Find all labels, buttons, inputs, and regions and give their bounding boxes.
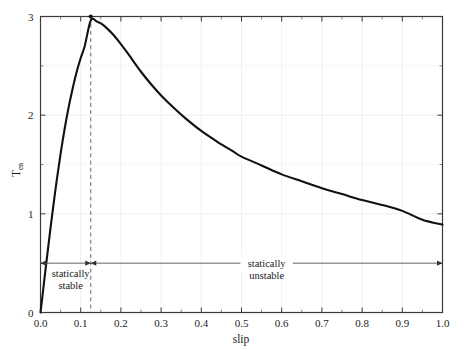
y-tick-label: 2 [28, 109, 34, 121]
svg-text:statically: statically [52, 268, 91, 279]
svg-text:statically: statically [248, 258, 287, 269]
chart-background [0, 0, 464, 350]
x-tick-label: 0.6 [275, 317, 289, 329]
x-tick-label: 0.8 [355, 317, 369, 329]
svg-text:unstable: unstable [249, 270, 284, 281]
peak-marker-dot [89, 14, 93, 18]
x-tick-label: 0.3 [154, 317, 168, 329]
x-tick-label: 0.9 [395, 317, 409, 329]
torque-slip-chart: 0.00.10.20.30.40.50.60.70.80.91.0 0123 s… [0, 0, 464, 350]
x-tick-label: 1.0 [436, 317, 450, 329]
x-tick-label: 0.2 [114, 317, 128, 329]
x-tick-label: 0.1 [74, 317, 88, 329]
svg-text:stable: stable [58, 280, 83, 291]
x-tick-label: 0.5 [235, 317, 249, 329]
x-axis-title: slip [233, 333, 250, 346]
y-tick-label: 1 [28, 208, 34, 220]
y-tick-label: 0 [28, 307, 34, 319]
chart-canvas: 0.00.10.20.30.40.50.60.70.80.91.0 0123 s… [0, 0, 464, 350]
x-tick-label: 0.4 [194, 317, 208, 329]
y-tick-label: 3 [28, 11, 34, 23]
x-tick-label: 0.0 [34, 317, 48, 329]
x-tick-label: 0.7 [315, 317, 329, 329]
